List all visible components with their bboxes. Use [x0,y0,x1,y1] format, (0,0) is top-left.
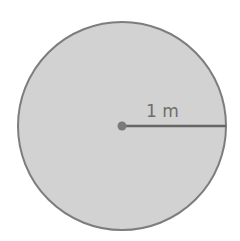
center-dot [118,122,127,131]
circle-diagram: 1 m [0,0,240,241]
radius-label: 1 m [146,101,179,121]
